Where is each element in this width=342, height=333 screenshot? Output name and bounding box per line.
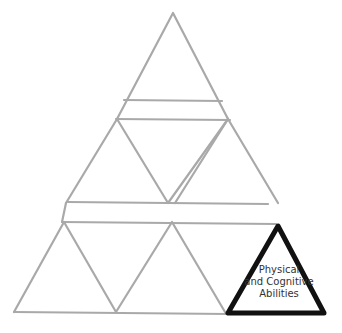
lower-band (62, 202, 276, 224)
label-line-3: Abilities (238, 288, 320, 300)
label-line-1: Physical (238, 264, 320, 276)
top-band (116, 100, 230, 120)
middle-tier (66, 119, 278, 203)
top-triangle (117, 13, 228, 119)
bottom-tier (14, 222, 228, 314)
physical-cognitive-abilities-label: Physical and Cognitive Abilities (238, 264, 320, 300)
label-line-2: and Cognitive (238, 276, 320, 288)
